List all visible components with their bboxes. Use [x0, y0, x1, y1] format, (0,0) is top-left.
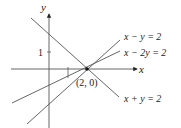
x-axis-label: x: [138, 63, 144, 75]
y-axis-label: y: [40, 1, 46, 13]
intersection-label: (2, 0): [76, 77, 98, 89]
label-x-minus-2y: x − 2y = 2: [123, 47, 166, 58]
diagram-canvas: y x 1 (2, 0) x − y = 2 x − 2y = 2 x + y …: [0, 0, 181, 128]
label-x-plus-y: x + y = 2: [123, 93, 161, 104]
y-tick-label: 1: [38, 47, 43, 58]
label-x-minus-y: x − y = 2: [123, 31, 161, 42]
intersection-point: [85, 67, 89, 71]
line-x-minus-2y: [12, 51, 120, 103]
